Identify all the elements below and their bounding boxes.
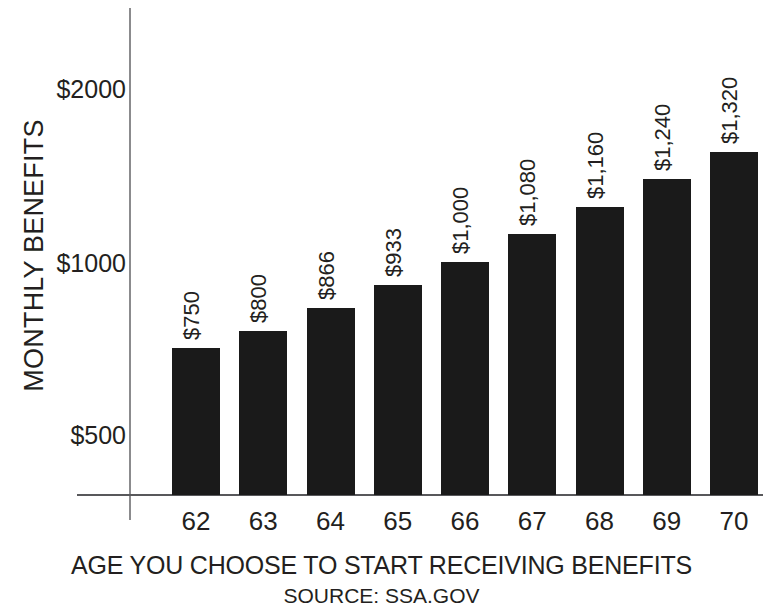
- x-tick-label-67: 67: [508, 506, 556, 537]
- x-tick-label-62: 62: [172, 506, 220, 537]
- x-tick-label-69: 69: [643, 506, 691, 537]
- bar-value-label-65: $933: [381, 228, 407, 277]
- x-axis-title: AGE YOU CHOOSE TO START RECEIVING BENEFI…: [0, 551, 763, 580]
- bar-rect-63: [239, 331, 287, 495]
- bar-rect-64: [307, 308, 355, 495]
- x-tick-label-65: 65: [374, 506, 422, 537]
- bar-value-label-62: $750: [179, 291, 205, 340]
- bar-value-label-68: $1,160: [583, 132, 609, 199]
- bar-value-label-66: $1,000: [448, 187, 474, 254]
- bar-65: $933: [374, 285, 422, 495]
- x-tick-label-68: 68: [576, 506, 624, 537]
- source-note: SOURCE: SSA.GOV: [0, 584, 763, 608]
- bar-value-label-63: $800: [246, 274, 272, 323]
- bar-rect-67: [508, 234, 556, 495]
- bar-67: $1,080: [508, 234, 556, 495]
- bar-69: $1,240: [643, 179, 691, 495]
- bar-rect-70: [710, 152, 758, 495]
- bar-rect-66: [441, 262, 489, 495]
- bar-62: $750: [172, 348, 220, 495]
- x-tick-label-70: 70: [710, 506, 758, 537]
- x-tick-label-66: 66: [441, 506, 489, 537]
- bar-value-label-67: $1,080: [515, 159, 541, 226]
- bar-63: $800: [239, 331, 287, 495]
- plot-area: $750$800$866$933$1,000$1,080$1,160$1,240…: [0, 0, 763, 495]
- bar-70: $1,320: [710, 152, 758, 495]
- x-tick-label-64: 64: [307, 506, 355, 537]
- bar-rect-65: [374, 285, 422, 495]
- bar-rect-69: [643, 179, 691, 495]
- bar-64: $866: [307, 308, 355, 495]
- bar-66: $1,000: [441, 262, 489, 495]
- bar-value-label-69: $1,240: [650, 104, 676, 171]
- bar-chart: MONTHLY BENEFITS $2000 $1000 $500 $750$8…: [0, 0, 763, 616]
- bar-68: $1,160: [576, 207, 624, 495]
- bar-rect-68: [576, 207, 624, 495]
- x-tick-label-63: 63: [239, 506, 287, 537]
- bar-value-label-70: $1,320: [717, 77, 743, 144]
- bar-value-label-64: $866: [314, 251, 340, 300]
- bar-rect-62: [172, 348, 220, 495]
